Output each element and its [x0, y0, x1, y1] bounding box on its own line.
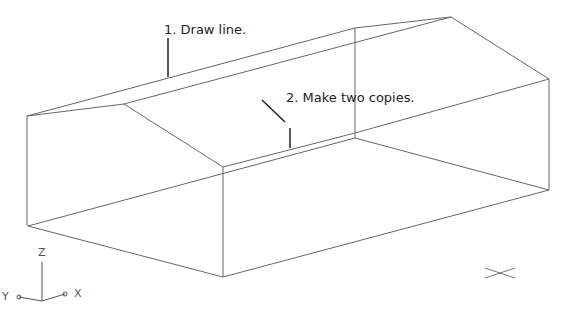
- drawing-canvas[interactable]: 1. Draw line. 2. Make two copies. Z Y X: [0, 0, 561, 318]
- ucs-icon: [17, 262, 67, 301]
- annotation-step2: 2. Make two copies.: [286, 90, 415, 105]
- ucs-y-label: Y: [2, 290, 9, 303]
- annotation-step1: 1. Draw line.: [164, 22, 246, 37]
- ucs-x-label: X: [74, 287, 82, 300]
- ucs-z-label: Z: [38, 246, 46, 259]
- wireframe-box: [0, 0, 561, 318]
- pick-marker-icon: [485, 268, 515, 278]
